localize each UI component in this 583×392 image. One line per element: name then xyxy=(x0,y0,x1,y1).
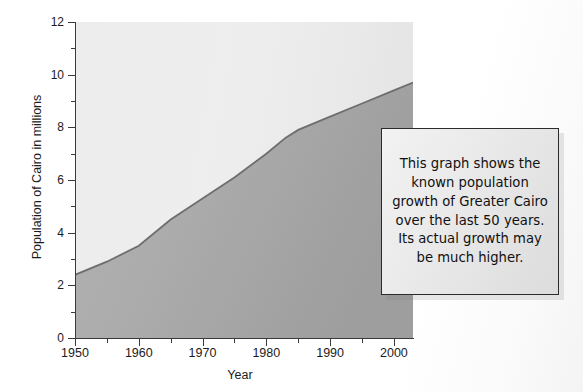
chart-screenshot: 0 2 4 6 8 10 12 1950 1960 1970 1980 1990… xyxy=(0,0,583,392)
y-tick-11 xyxy=(71,48,75,49)
x-tick-label-2000: 2000 xyxy=(364,347,424,360)
x-axis-line xyxy=(75,338,414,339)
y-tick-0 xyxy=(68,338,75,339)
y-tick-9 xyxy=(71,101,75,102)
y-tick-2 xyxy=(68,285,75,286)
x-tick-label-1960: 1960 xyxy=(109,347,169,360)
y-tick-10 xyxy=(68,75,75,76)
plot-area xyxy=(75,22,413,338)
x-axis-title: Year xyxy=(0,368,480,382)
x-tick-label-1950: 1950 xyxy=(45,347,105,360)
x-tick-1985 xyxy=(298,339,299,343)
x-tick-1990 xyxy=(330,339,331,346)
y-tick-4 xyxy=(68,233,75,234)
x-tick-1955 xyxy=(107,339,108,343)
y-tick-label-12: 12 xyxy=(4,16,64,28)
y-tick-3 xyxy=(71,259,75,260)
x-tick-1975 xyxy=(234,339,235,343)
y-tick-8 xyxy=(68,127,75,128)
population-area-series xyxy=(75,22,413,338)
callout-box: This graph shows the known population gr… xyxy=(381,128,559,295)
x-tick-1995 xyxy=(362,339,363,343)
y-tick-6 xyxy=(68,180,75,181)
x-tick-label-1970: 1970 xyxy=(173,347,233,360)
x-tick-1950 xyxy=(75,339,76,346)
y-axis-title: Population of Cairo in millions xyxy=(30,62,44,292)
x-tick-1960 xyxy=(139,339,140,346)
y-tick-label-0: 0 xyxy=(4,332,64,344)
x-tick-1965 xyxy=(171,339,172,343)
x-tick-label-1980: 1980 xyxy=(236,347,296,360)
y-tick-5 xyxy=(71,206,75,207)
y-tick-12 xyxy=(68,22,75,23)
x-tick-label-1990: 1990 xyxy=(300,347,360,360)
y-tick-1 xyxy=(71,312,75,313)
callout-text: This graph shows the known population gr… xyxy=(382,155,558,267)
x-tick-1970 xyxy=(203,339,204,346)
y-tick-7 xyxy=(71,154,75,155)
y-axis-line xyxy=(75,22,76,339)
x-tick-2000 xyxy=(394,339,395,346)
x-tick-1980 xyxy=(266,339,267,346)
